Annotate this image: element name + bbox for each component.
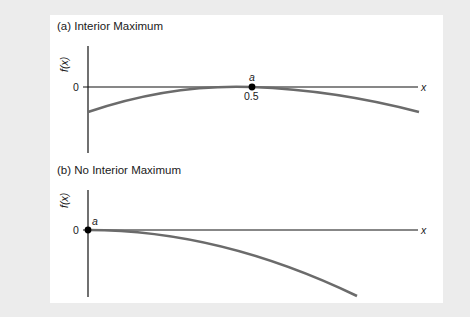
chart-svg: (a) Interior Maximum f(x) 0 x a 0.5 (b) … xyxy=(0,0,470,317)
chart-a-ytick-zero: 0 xyxy=(73,81,79,93)
chart-b: (b) No Interior Maximum f(x) 0 x a xyxy=(57,164,427,297)
chart-a: (a) Interior Maximum f(x) 0 x a 0.5 xyxy=(57,20,427,153)
chart-a-ylabel: f(x) xyxy=(58,57,70,72)
chart-a-xtick: 0.5 xyxy=(244,90,259,102)
chart-b-xlabel: x xyxy=(420,224,427,236)
chart-b-title: (b) No Interior Maximum xyxy=(57,164,181,176)
chart-b-curve xyxy=(88,230,357,296)
chart-b-ytick-zero: 0 xyxy=(73,224,79,236)
chart-a-xlabel: x xyxy=(420,81,427,93)
chart-a-title: (a) Interior Maximum xyxy=(57,20,163,32)
chart-a-point-label: a xyxy=(249,71,255,83)
chart-b-ylabel: f(x) xyxy=(58,193,70,208)
chart-b-max-point xyxy=(85,227,92,234)
chart-b-point-label: a xyxy=(92,215,98,227)
